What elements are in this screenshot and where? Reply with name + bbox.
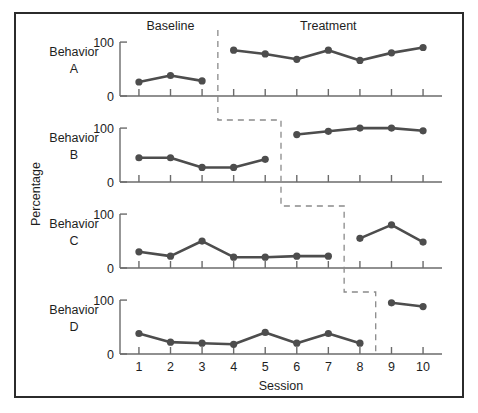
y-tick-label: 0 (107, 348, 114, 362)
data-point (198, 237, 205, 244)
panel-d: 0100BehaviorD (49, 294, 442, 362)
data-point (356, 124, 363, 131)
x-tick-label: 2 (167, 360, 174, 374)
data-point (262, 156, 269, 163)
data-point (325, 128, 332, 135)
panel-c: 0100BehaviorC (49, 208, 442, 276)
x-tick-label: 1 (135, 360, 142, 374)
data-point (419, 44, 426, 51)
panel-label-letter-a: A (70, 62, 79, 76)
x-tick-label: 8 (356, 360, 363, 374)
panel-label-letter-b: B (70, 148, 78, 162)
data-point (135, 154, 142, 161)
panel-label-b: Behavior (49, 131, 98, 145)
data-point (230, 341, 237, 348)
data-point (356, 57, 363, 64)
data-point (262, 329, 269, 336)
figure-border: 0100BehaviorA0100BehaviorB0100BehaviorC0… (14, 12, 464, 398)
x-tick-label: 3 (199, 360, 206, 374)
x-tick-label: 5 (262, 360, 269, 374)
data-point (167, 154, 174, 161)
data-point (198, 77, 205, 84)
data-point (356, 235, 363, 242)
data-point (325, 253, 332, 260)
data-point (388, 124, 395, 131)
data-point (388, 221, 395, 228)
panel-a: 0100BehaviorA (49, 36, 442, 104)
data-point (135, 330, 142, 337)
data-point (230, 164, 237, 171)
data-point (135, 78, 142, 85)
data-point (230, 254, 237, 261)
data-point (325, 330, 332, 337)
series-line-treatment (391, 303, 423, 307)
data-point (388, 299, 395, 306)
data-point (262, 254, 269, 261)
data-point (167, 253, 174, 260)
data-point (135, 248, 142, 255)
x-tick-label: 6 (293, 360, 300, 374)
panel-label-d: Behavior (49, 303, 98, 317)
y-tick-label: 0 (107, 90, 114, 104)
x-tick-label: 4 (230, 360, 237, 374)
x-axis-title: Session (259, 379, 304, 393)
y-tick-label: 0 (107, 262, 114, 276)
y-tick-label: 0 (107, 176, 114, 190)
data-point (293, 340, 300, 347)
data-point (167, 339, 174, 346)
data-point (325, 47, 332, 54)
x-tick-label: 10 (416, 360, 430, 374)
phase-label-treatment: Treatment (300, 19, 357, 33)
panel-label-letter-d: D (69, 320, 78, 334)
phase-label-baseline: Baseline (147, 19, 195, 33)
data-point (419, 127, 426, 134)
x-tick-label: 9 (388, 360, 395, 374)
panel-label-letter-c: C (69, 234, 78, 248)
data-point (293, 253, 300, 260)
data-point (198, 340, 205, 347)
data-point (198, 164, 205, 171)
data-point (230, 47, 237, 54)
y-axis-title: Percentage (29, 162, 43, 226)
data-point (293, 131, 300, 138)
data-point (167, 72, 174, 79)
panel-b: 0100BehaviorB (49, 122, 442, 190)
data-point (419, 239, 426, 246)
x-tick-label: 7 (325, 360, 332, 374)
multiple-baseline-chart: 0100BehaviorA0100BehaviorB0100BehaviorC0… (16, 14, 462, 396)
phase-change-step-line (218, 30, 376, 354)
data-point (419, 303, 426, 310)
phase-change-path (218, 30, 376, 354)
data-point (262, 50, 269, 57)
panel-label-c: Behavior (49, 217, 98, 231)
data-point (356, 340, 363, 347)
panel-label-a: Behavior (49, 45, 98, 59)
data-point (293, 56, 300, 63)
data-point (388, 49, 395, 56)
